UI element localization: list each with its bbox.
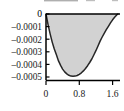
y-tick-label-1: –0.0001	[11, 22, 43, 32]
y-tick-label-5: –0.0005	[11, 72, 43, 82]
x-tick-label-2: 1.6	[107, 88, 119, 99]
x-tick-label-1: 0.8	[73, 88, 85, 99]
y-tick-label-2: –0.0002	[11, 35, 43, 45]
chart-figure: 0 –0.0001 –0.0002 –0.0003 –0.0004 –0.000…	[0, 0, 124, 111]
y-tick-label-4: –0.0004	[11, 60, 43, 70]
x-tick-label-0: 0	[44, 88, 49, 99]
y-tick-label-3: –0.0003	[11, 47, 43, 57]
chart-svg: 0 –0.0001 –0.0002 –0.0003 –0.0004 –0.000…	[0, 0, 124, 111]
y-tick-label-0: 0	[37, 8, 42, 19]
